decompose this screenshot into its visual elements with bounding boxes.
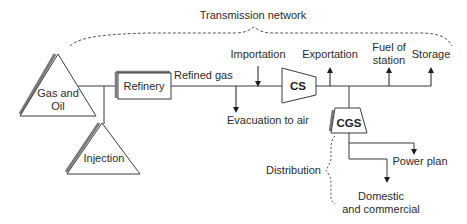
domestic-label-line2: and commercial [342,203,420,215]
importation-label: Importation [230,48,285,60]
domestic-arrow [349,159,387,180]
refined-gas-label: Refined gas [174,69,233,81]
cs-label: CS [290,80,306,92]
refinery-node: Refinery [116,72,171,99]
gas-oil-label-line1: Gas and [37,87,79,99]
fuel-station-label-line2: station [373,54,405,66]
power-plan-label: Power plan [392,155,447,167]
refinery-label: Refinery [124,80,165,92]
power-plan-arrow [349,143,414,152]
gas-oil-source: Gas and Oil [20,54,96,116]
cs-compressor: CS [282,68,316,103]
storage-label: Storage [412,48,451,60]
evacuation-label: Evacuation to air [227,114,309,126]
transmission-network-label: Transmission network [200,9,307,21]
gas-network-diagram: Transmission network Gas and Oil Injecti… [0,0,467,224]
injection-label: Injection [84,152,125,164]
domestic-label-line1: Domestic [358,190,404,202]
cgs-station: CGS [330,108,367,133]
fuel-station-label-line1: Fuel of [372,41,407,53]
injection-node: Injection [66,123,140,174]
distribution-label: Distribution [266,164,321,176]
distribution-bracket [326,136,335,204]
exportation-label: Exportation [302,48,358,60]
cgs-label: CGS [337,117,362,129]
gas-oil-label-line2: Oil [51,100,64,112]
